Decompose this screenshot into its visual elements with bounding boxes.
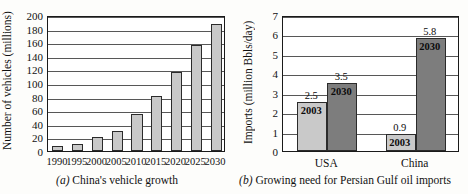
bar-value-label: 2.5	[305, 91, 318, 102]
bar-value-label: 5.8	[423, 27, 436, 38]
caption-a-text: China's vehicle growth	[69, 174, 177, 186]
chart-panel-b: Imports (million Bbls/day) 01234567 USAC…	[234, 0, 468, 194]
bar-value-label: 0.9	[393, 123, 406, 134]
x-tick-label: 2010	[126, 157, 147, 168]
y-tick-label: 7	[273, 11, 279, 22]
y-tick-label: 6	[273, 30, 279, 41]
y-tick-label: 180	[27, 24, 44, 35]
y-tick-label: 160	[27, 38, 44, 49]
bar	[131, 114, 142, 151]
y-tick-label: 0	[273, 147, 279, 158]
y-tick-label: 80	[32, 92, 43, 103]
y-tick-label: 40	[32, 119, 43, 130]
bar-series-label: 2030	[331, 87, 352, 98]
x-tick-label: 1990	[46, 157, 67, 168]
plot-area-a	[47, 16, 225, 152]
bar-series-label: 2003	[301, 106, 322, 117]
bars-a	[48, 17, 224, 151]
y-tick-label: 200	[27, 11, 44, 22]
y-tick-label: 20	[32, 133, 43, 144]
y-tick-label: 5	[273, 49, 279, 60]
y-axis-ticks-a: 020406080100120140160180200	[17, 16, 43, 152]
chart-panel-a: Number of vehicles (millions) 0204060801…	[0, 0, 234, 194]
x-tick-label: 2030	[205, 157, 226, 168]
caption-b-text: Growing need for Persian Gulf oil import…	[253, 174, 451, 186]
x-tick-label: 2005	[106, 157, 127, 168]
caption-b-marker: (b)	[239, 174, 252, 186]
y-axis-title-a: Number of vehicles (millions)	[1, 6, 13, 156]
bar-series-label: 2030	[419, 42, 440, 53]
x-group-label: USA	[315, 158, 338, 170]
bar	[416, 38, 446, 151]
bar	[151, 96, 162, 151]
y-axis-ticks-b: 01234567	[252, 16, 278, 152]
x-tick-label: 2000	[86, 157, 107, 168]
y-tick-label: 0	[38, 147, 44, 158]
caption-a-marker: (a)	[56, 174, 69, 186]
x-tick-label: 2025	[185, 157, 206, 168]
y-tick-label: 1	[273, 127, 279, 138]
y-tick-label: 100	[27, 79, 44, 90]
bar	[211, 24, 222, 151]
x-tick-label: 1995	[66, 157, 87, 168]
y-tick-label: 4	[273, 69, 279, 80]
x-tick-label: 2015	[145, 157, 166, 168]
y-tick-label: 120	[27, 65, 44, 76]
bar	[191, 45, 202, 151]
bar	[112, 131, 123, 151]
caption-b: (b) Growing need for Persian Gulf oil im…	[228, 175, 462, 187]
bar	[52, 146, 63, 151]
figure-container: Number of vehicles (millions) 0204060801…	[0, 0, 468, 194]
bar-series-label: 2003	[389, 138, 410, 149]
bar	[171, 72, 182, 151]
x-group-label: China	[401, 158, 428, 170]
y-tick-label: 140	[27, 51, 44, 62]
bar	[92, 137, 103, 151]
bar	[72, 144, 83, 151]
bar-value-label: 3.5	[335, 72, 348, 83]
caption-a: (a) China's vehicle growth	[0, 175, 234, 187]
y-tick-label: 2	[273, 108, 279, 119]
y-tick-label: 3	[273, 88, 279, 99]
y-tick-label: 60	[32, 106, 43, 117]
x-tick-label: 2020	[165, 157, 186, 168]
